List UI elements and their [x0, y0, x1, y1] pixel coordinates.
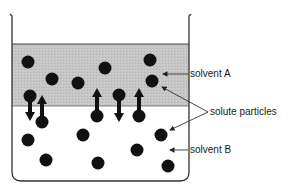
label-solvent-b: solvent B: [190, 144, 231, 156]
label-solvent-a: solvent A: [190, 68, 231, 80]
beaker-diagram: [0, 0, 295, 190]
solute-particles-solvent-b: [22, 110, 175, 173]
label-solute-particles: solute particles: [210, 106, 277, 118]
